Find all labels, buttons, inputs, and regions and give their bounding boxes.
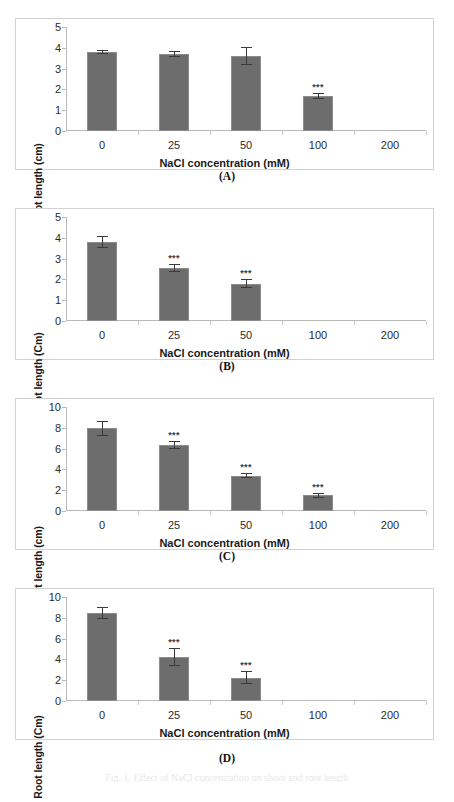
error-bar-cap-top (169, 441, 180, 442)
y-tick-label: 4 (36, 43, 61, 53)
y-tick-label: 0 (36, 696, 61, 706)
panel-plot-area: Root length (cm)0246810*********02550100… (15, 398, 434, 550)
y-tick-mark (62, 279, 66, 280)
y-tick-mark (62, 131, 66, 132)
panel-caption-c: (C) (0, 550, 454, 562)
plot-inner: Root length (Cm)0246810******02550100200… (16, 589, 433, 739)
x-tick-mark (138, 701, 139, 705)
y-tick-mark (62, 428, 66, 429)
significance-marker: *** (240, 661, 251, 669)
y-tick-mark (62, 238, 66, 239)
error-bar-cap-bottom (313, 497, 324, 498)
y-tick-mark (62, 69, 66, 70)
y-tick-label: 4 (36, 233, 61, 243)
y-tick-mark (62, 217, 66, 218)
y-tick-mark (62, 27, 66, 28)
y-tick-label: 5 (36, 22, 61, 32)
y-tick-label: 10 (36, 592, 61, 602)
axes: ****** (66, 217, 426, 321)
bar-0mM (87, 52, 117, 131)
error-bar-cap-bottom (241, 287, 252, 288)
error-bar-cap-top (313, 493, 324, 494)
x-tick-label-100: 100 (309, 329, 327, 341)
plot-inner: Shoot length (Cm)012345******02550100200… (16, 209, 433, 359)
x-axis-label: NaCl concentration (mM) (16, 157, 433, 169)
y-tick-mark (62, 449, 66, 450)
axes: ********* (66, 407, 426, 511)
significance-marker: *** (240, 269, 251, 277)
panel-caption-a: (A) (0, 170, 454, 182)
x-tick-mark (354, 131, 355, 135)
x-tick-label-50: 50 (240, 519, 252, 531)
error-bar-cap-top (97, 236, 108, 237)
error-bar-cap-top (97, 607, 108, 608)
x-tick-mark (210, 511, 211, 515)
x-axis-label: NaCl concentration (mM) (16, 347, 433, 359)
error-bar-cap-bottom (169, 271, 180, 272)
error-bar-cap-top (241, 47, 252, 48)
error-bar-cap-top (241, 671, 252, 672)
x-tick-label-200: 200 (381, 139, 399, 151)
y-tick-label: 5 (36, 212, 61, 222)
y-tick-mark (62, 48, 66, 49)
x-tick-mark (282, 701, 283, 705)
x-tick-label-100: 100 (309, 139, 327, 151)
y-tick-label: 2 (36, 485, 61, 495)
x-tick-mark (426, 131, 427, 135)
y-tick-mark (62, 407, 66, 408)
significance-marker: *** (168, 638, 179, 646)
y-tick-mark (62, 639, 66, 640)
x-tick-mark (210, 701, 211, 705)
y-tick-mark (62, 300, 66, 301)
y-tick-label: 2 (36, 274, 61, 284)
x-tick-mark (426, 701, 427, 705)
error-bar-cap-bottom (241, 683, 252, 684)
x-tick-label-0: 0 (99, 329, 105, 341)
error-bar-cap-top (169, 264, 180, 265)
x-tick-mark (282, 131, 283, 135)
y-tick-label: 8 (36, 613, 61, 623)
x-tick-mark (426, 321, 427, 325)
x-tick-label-0: 0 (99, 139, 105, 151)
axes: *** (66, 27, 426, 131)
bar-50mM (231, 56, 261, 131)
x-tick-label-50: 50 (240, 329, 252, 341)
panel-plot-area: Shoot length (Cm)012345******02550100200… (15, 208, 434, 360)
error-bar-cap-bottom (169, 665, 180, 666)
x-tick-label-25: 25 (168, 519, 180, 531)
x-tick-label-50: 50 (240, 709, 252, 721)
error-bar-cap-top (169, 51, 180, 52)
error-bar-cap-top (97, 421, 108, 422)
y-tick-mark (62, 597, 66, 598)
y-tick-mark (62, 511, 66, 512)
x-tick-mark (354, 701, 355, 705)
x-tick-label-200: 200 (381, 519, 399, 531)
y-tick-label: 1 (36, 295, 61, 305)
bar-0mM (87, 242, 117, 321)
y-tick-mark (62, 110, 66, 111)
bar-100mM (303, 96, 333, 131)
bar-0mM (87, 428, 117, 511)
significance-marker: *** (312, 83, 323, 91)
x-tick-label-25: 25 (168, 139, 180, 151)
error-bar-stem (102, 421, 103, 436)
x-axis-label: NaCl concentration (mM) (16, 727, 433, 739)
y-tick-mark (62, 259, 66, 260)
y-tick-mark (62, 321, 66, 322)
y-tick-label: 3 (36, 254, 61, 264)
y-tick-label: 2 (36, 675, 61, 685)
error-bar-stem (174, 648, 175, 666)
bar-25mM (159, 445, 189, 511)
x-tick-mark (282, 511, 283, 515)
panel-plot-area: Shoot length (cm)012345***02550100200NaC… (15, 18, 434, 170)
y-tick-mark (62, 659, 66, 660)
y-tick-label: 0 (36, 316, 61, 326)
y-tick-label: 6 (36, 444, 61, 454)
x-tick-label-100: 100 (309, 709, 327, 721)
x-tick-mark (426, 511, 427, 515)
x-tick-label-100: 100 (309, 519, 327, 531)
bar-50mM (231, 476, 261, 511)
x-tick-mark (354, 321, 355, 325)
error-bar-cap-top (313, 93, 324, 94)
